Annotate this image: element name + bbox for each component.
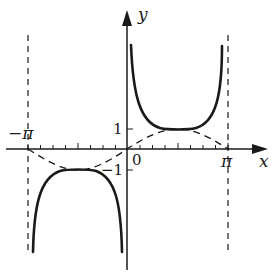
y-tick-neg-one-label: −1	[101, 161, 123, 179]
y-axis-label: y	[137, 4, 148, 24]
x-axis-label: x	[259, 151, 269, 171]
asymptotes	[28, 35, 228, 255]
pi-label: π	[220, 151, 233, 171]
y-axis-arrow-icon	[122, 10, 132, 26]
csc-lower-branch	[33, 170, 122, 253]
origin-label: 0	[132, 151, 142, 169]
y-tick-one-label: 1	[113, 120, 123, 138]
csc-upper-branch	[131, 45, 222, 130]
csc-sin-plot: y x 0 −π π 1 −1	[0, 0, 280, 280]
neg-pi-label: −π	[8, 123, 34, 143]
